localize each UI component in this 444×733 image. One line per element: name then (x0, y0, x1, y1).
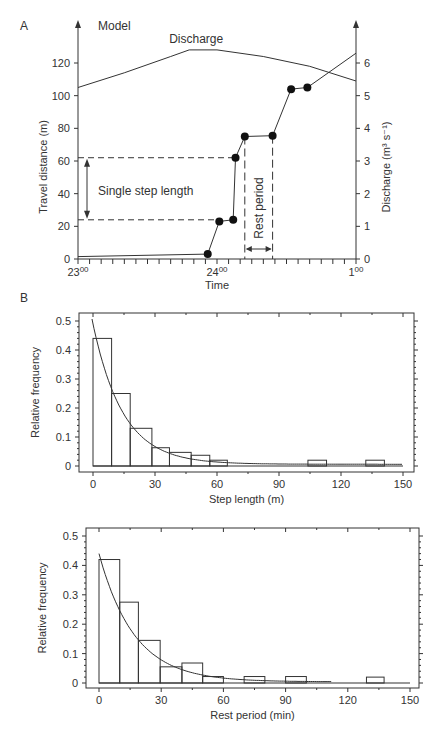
y-tick-label: 0 (65, 460, 71, 472)
x-tick-label: 90 (273, 478, 285, 490)
x-tick-label: 120 (339, 694, 357, 706)
travel-distance-point (232, 154, 240, 162)
x-axis-title: Time (205, 279, 229, 291)
x-tick-label: 120 (332, 478, 350, 490)
y-tick-label: 0.1 (56, 431, 71, 443)
x-tick-label: 150 (394, 478, 412, 490)
histogram-bar (286, 677, 307, 683)
histogram-bar (210, 460, 228, 466)
y-tick-label: 100 (52, 90, 70, 102)
histogram-bar (366, 677, 384, 683)
travel-distance-line (78, 53, 356, 256)
y-axis-title: Relative frequency (29, 346, 41, 438)
y2-tick-label: 0 (364, 253, 370, 265)
y-tick-label: 0.1 (63, 648, 78, 660)
histogram-bar (93, 338, 112, 466)
histogram-bar (130, 428, 152, 466)
x-tick-label: 100 (348, 265, 364, 278)
model-label: Model (98, 19, 131, 33)
exponential-fit-curve (99, 554, 331, 682)
left-axis-arrow-icon (75, 20, 81, 28)
y-axis-title: Travel distance (m) (37, 120, 49, 214)
plot-frame (79, 313, 414, 472)
x-tick-label: 60 (211, 478, 223, 490)
discharge-label: Discharge (169, 32, 223, 46)
panel-b-step-length-histogram: 0306090120150Step length (m)00.10.20.30.… (29, 313, 418, 505)
plot-frame (86, 528, 419, 688)
y-tick-label: 60 (58, 155, 70, 167)
exponential-fit-curve (92, 319, 402, 464)
y2-tick-label: 5 (364, 90, 370, 102)
y-tick-label: 20 (58, 220, 70, 232)
y2-tick-label: 6 (364, 57, 370, 69)
x-tick-label: 0 (96, 694, 102, 706)
right-axis-arrow-icon (353, 20, 359, 28)
y2-tick-label: 4 (364, 122, 370, 134)
y-tick-label: 0 (64, 253, 70, 265)
y-tick-label: 40 (58, 188, 70, 200)
figure: A Model 23002400100Time020406080100120Tr… (0, 0, 444, 733)
histogram-bar (138, 640, 160, 683)
arrow-down-icon (84, 211, 90, 219)
arrow-left-icon (246, 246, 252, 252)
y-tick-label: 120 (52, 57, 70, 69)
y-tick-label: 0.4 (63, 559, 78, 571)
x-tick-label: 30 (155, 694, 167, 706)
x-tick-label: 30 (149, 478, 161, 490)
y-tick-label: 0.4 (56, 344, 71, 356)
histogram-bar (112, 394, 131, 467)
travel-distance-point (229, 216, 237, 224)
histogram-bar (152, 448, 170, 466)
y-tick-label: 0.5 (56, 315, 71, 327)
y-tick-label: 0.2 (56, 402, 71, 414)
x-tick-label: 60 (217, 694, 229, 706)
histogram-bar (160, 667, 182, 683)
step-length-label: Single step length (98, 184, 193, 198)
x-axis-title: Rest period (min) (210, 709, 294, 721)
histogram-bar (120, 602, 139, 683)
x-tick-label: 0 (90, 478, 96, 490)
y-tick-label: 0.5 (63, 530, 78, 542)
y2-tick-label: 3 (364, 155, 370, 167)
histogram-bar (366, 460, 385, 466)
discharge-line (78, 50, 356, 88)
y2-axis-title: Discharge (m³ s⁻¹) (380, 122, 392, 213)
arrow-up-icon (84, 159, 90, 167)
rest-period-label: Rest period (252, 177, 266, 238)
y2-tick-label: 2 (364, 188, 370, 200)
x-tick-label: 150 (401, 694, 419, 706)
y-tick-label: 0.3 (63, 589, 78, 601)
travel-distance-point (215, 217, 223, 225)
histogram-bar (99, 560, 120, 683)
y2-tick-label: 1 (364, 220, 370, 232)
arrow-right-icon (266, 246, 272, 252)
travel-distance-point (287, 85, 295, 93)
travel-distance-point (269, 132, 277, 140)
y-tick-label: 0 (72, 677, 78, 689)
panel-label-b: B (20, 291, 28, 305)
y-axis-title: Relative frequency (36, 562, 48, 654)
travel-distance-point (241, 133, 249, 141)
histogram-bar (308, 460, 327, 466)
y-tick-label: 0.3 (56, 373, 71, 385)
x-axis-title: Step length (m) (209, 493, 284, 505)
panel-label-a: A (20, 19, 28, 33)
panel-c-rest-period-histogram: 0306090120150Rest period (min)00.10.20.3… (36, 528, 423, 721)
travel-distance-point (303, 84, 311, 92)
y-tick-label: 0.2 (63, 618, 78, 630)
panel-a: 23002400100Time020406080100120Travel dis… (37, 20, 392, 291)
x-tick-label: 2400 (206, 265, 228, 278)
x-tick-label: 2300 (67, 265, 89, 278)
y-tick-label: 80 (58, 122, 70, 134)
travel-distance-point (204, 250, 212, 258)
x-tick-label: 90 (279, 694, 291, 706)
